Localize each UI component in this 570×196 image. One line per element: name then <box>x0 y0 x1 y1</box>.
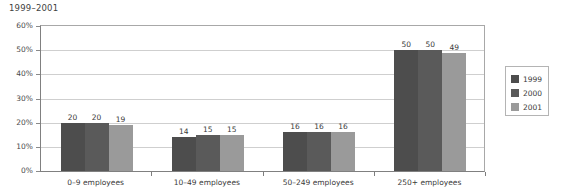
bar-group: 505049 <box>394 26 466 171</box>
bar-value-label: 20 <box>92 113 102 122</box>
bar[interactable] <box>418 50 442 171</box>
bar-value-label: 20 <box>68 113 78 122</box>
bar-column[interactable]: 15 <box>196 26 220 171</box>
legend-item[interactable]: 2001 <box>511 100 548 114</box>
bar-value-label: 16 <box>314 122 324 131</box>
bar[interactable] <box>283 132 307 171</box>
x-axis-tick <box>374 172 375 176</box>
bar[interactable] <box>196 135 220 171</box>
legend-color-swatch <box>511 89 519 97</box>
x-axis-category-label: 0–9 employees <box>40 178 151 187</box>
plot-area: 202019141515161616505049 <box>40 25 485 172</box>
bar-value-label: 50 <box>426 40 436 49</box>
bar[interactable] <box>331 132 355 171</box>
bar-column[interactable]: 20 <box>61 26 85 171</box>
bar-column[interactable]: 14 <box>172 26 196 171</box>
y-axis-tick-label: 10% <box>5 142 33 151</box>
bar[interactable] <box>394 50 418 171</box>
y-axis-tick-label: 30% <box>5 94 33 103</box>
bar[interactable] <box>307 132 331 171</box>
y-axis-tick-label: 50% <box>5 45 33 54</box>
bar[interactable] <box>442 53 466 171</box>
bar-value-label: 15 <box>203 125 213 134</box>
bar[interactable] <box>220 135 244 171</box>
bar-value-label: 16 <box>338 122 348 131</box>
bar-value-label: 19 <box>116 115 126 124</box>
bar-column[interactable]: 16 <box>331 26 355 171</box>
bar-column[interactable]: 16 <box>283 26 307 171</box>
bar-column[interactable]: 16 <box>307 26 331 171</box>
x-axis-tick <box>151 172 152 176</box>
bar-column[interactable]: 19 <box>109 26 133 171</box>
bar[interactable] <box>61 123 85 171</box>
bar-group: 141515 <box>172 26 244 171</box>
y-axis-tick-label: 20% <box>5 118 33 127</box>
bar-value-label: 16 <box>290 122 300 131</box>
x-axis-tick <box>485 172 486 176</box>
bar-column[interactable]: 15 <box>220 26 244 171</box>
bar-chart: 1999–2001 0%10%20%30%40%50%60% 202019141… <box>0 0 570 196</box>
bar[interactable] <box>85 123 109 171</box>
bar-group: 161616 <box>283 26 355 171</box>
legend-color-swatch <box>511 103 519 111</box>
legend-label: 2000 <box>523 89 542 98</box>
x-axis-category-label: 250+ employees <box>374 178 485 187</box>
x-axis-tick <box>263 172 264 176</box>
bar-value-label: 14 <box>179 127 189 136</box>
x-axis-category-label: 10–49 employees <box>151 178 262 187</box>
bar[interactable] <box>109 125 133 171</box>
legend-item[interactable]: 1999 <box>511 72 548 86</box>
bar-group: 202019 <box>61 26 133 171</box>
bar-value-label: 50 <box>402 40 412 49</box>
bar[interactable] <box>172 137 196 171</box>
legend-color-swatch <box>511 75 519 83</box>
bar-column[interactable]: 50 <box>394 26 418 171</box>
y-axis-tick-label: 40% <box>5 69 33 78</box>
x-axis-category-label: 50–249 employees <box>263 178 374 187</box>
bar-column[interactable]: 20 <box>85 26 109 171</box>
chart-title: 1999–2001 <box>9 3 58 13</box>
bar-column[interactable]: 50 <box>418 26 442 171</box>
y-axis-tick-label: 0% <box>5 166 33 175</box>
bar-value-label: 15 <box>227 125 237 134</box>
legend-label: 1999 <box>523 75 542 84</box>
legend-label: 2001 <box>523 103 542 112</box>
bar-column[interactable]: 49 <box>442 26 466 171</box>
y-axis-tick-label: 60% <box>5 21 33 30</box>
bar-value-label: 49 <box>450 43 460 52</box>
legend-item[interactable]: 2000 <box>511 86 548 100</box>
chart-legend: 199920002001 <box>505 66 549 116</box>
